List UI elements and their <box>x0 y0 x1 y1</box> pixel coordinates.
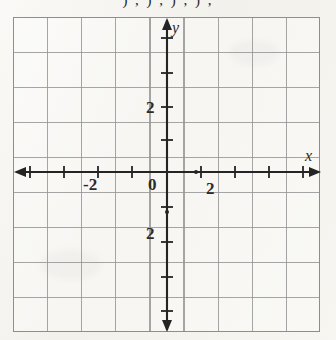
origin-label: 0 <box>148 176 157 193</box>
x-axis-label: x <box>305 148 312 164</box>
y-tick-label-pos2: 2 <box>146 99 155 116</box>
coordinate-grid <box>13 17 320 332</box>
plotted-point <box>194 170 198 174</box>
x-tick-label-neg2: -2 <box>83 176 97 193</box>
y-tick-label-neg2: 2 <box>146 225 155 242</box>
grid-border-right <box>319 17 320 332</box>
grid-border-bottom <box>13 331 320 332</box>
cut-off-header-text: ) , ) , ) , ) , <box>0 0 336 8</box>
plotted-point <box>165 210 169 214</box>
grid-border <box>13 17 320 332</box>
y-axis-label: y <box>172 20 179 36</box>
x-tick-label-pos2: 2 <box>206 180 215 197</box>
